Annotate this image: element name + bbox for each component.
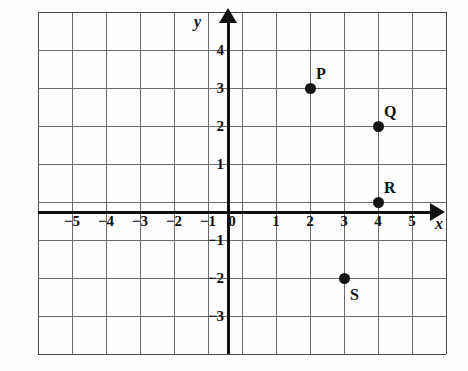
grid-line-vertical — [174, 12, 175, 354]
y-axis-label: y — [194, 14, 201, 30]
y-tick-label: −2 — [200, 271, 224, 286]
y-axis-line — [227, 18, 230, 354]
grid-line-horizontal — [38, 278, 446, 279]
y-tick-label: 2 — [210, 119, 224, 134]
grid-line-horizontal — [38, 50, 446, 51]
y-tick-label: −1 — [200, 233, 224, 248]
grid-line-horizontal — [38, 354, 446, 355]
x-axis-label: x — [435, 216, 443, 232]
y-axis-arrowhead-icon — [219, 8, 237, 23]
plotted-point-r — [373, 197, 384, 208]
x-tick-label: 2 — [306, 214, 314, 229]
y-tick-label: 3 — [210, 81, 224, 96]
point-label-s: S — [350, 287, 359, 303]
x-tick-label: −5 — [64, 214, 80, 229]
x-tick-label: 1 — [272, 214, 280, 229]
grid-line-horizontal — [38, 126, 446, 127]
grid-line-vertical — [140, 12, 141, 354]
plotted-point-p — [305, 83, 316, 94]
x-tick-label: 4 — [374, 214, 382, 229]
grid-line-horizontal — [38, 240, 446, 241]
grid-line-vertical — [310, 12, 311, 354]
point-label-p: P — [316, 66, 326, 82]
x-tick-label: −3 — [132, 214, 148, 229]
grid-line-horizontal — [38, 164, 446, 165]
point-label-q: Q — [384, 104, 396, 120]
grid-line-horizontal — [38, 88, 446, 89]
plotted-point-q — [373, 121, 384, 132]
grid-line-vertical — [276, 12, 277, 354]
grid-line-vertical — [208, 12, 209, 354]
plotted-point-s — [339, 273, 350, 284]
grid-line-vertical — [344, 12, 345, 354]
grid-line-vertical — [106, 12, 107, 354]
x-tick-label: −2 — [166, 214, 182, 229]
y-tick-label: −3 — [200, 309, 224, 324]
grid-line-vertical — [242, 12, 243, 354]
grid-line-horizontal — [38, 202, 446, 203]
x-tick-label: 5 — [408, 214, 416, 229]
x-tick-label: 3 — [340, 214, 348, 229]
grid-line-vertical — [38, 12, 39, 354]
grid-line-vertical — [412, 12, 413, 354]
x-tick-label: −4 — [98, 214, 114, 229]
grid-line-horizontal — [38, 316, 446, 317]
x-tick-label: −1 — [200, 214, 216, 229]
y-tick-label: 4 — [210, 43, 224, 58]
grid-line-vertical — [72, 12, 73, 354]
y-tick-label: 1 — [210, 157, 224, 172]
x-tick-label: 0 — [228, 214, 236, 229]
grid-line-horizontal — [38, 12, 446, 13]
grid-line-vertical — [446, 12, 447, 354]
grid-line-vertical — [378, 12, 379, 354]
coordinate-plane-figure: x y −5−4−3−2−10123454321−1−2−3 PQRS — [0, 0, 468, 371]
point-label-r: R — [384, 180, 396, 196]
